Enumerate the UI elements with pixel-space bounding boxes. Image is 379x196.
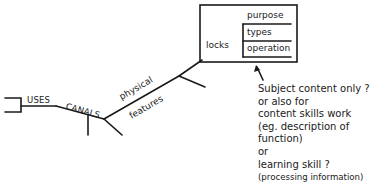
box-item-operation: operation [247, 44, 290, 53]
box-item-types: types [247, 28, 272, 37]
annotation-line: Subject content only ? [258, 83, 370, 96]
annotation-line: or [258, 146, 370, 159]
left-bracket [5, 98, 21, 112]
annotation-text: Subject content only ? or also for conte… [258, 83, 370, 184]
annotation-line: learning skill ? [258, 159, 370, 172]
annotation-line: function) [258, 133, 370, 146]
node-locks: locks [206, 41, 229, 50]
annotation-line: (processing information) [258, 171, 370, 184]
locks-line [179, 60, 202, 76]
features-branch [179, 76, 205, 87]
node-uses: USES [27, 96, 50, 105]
annotation-line: content skills work [258, 108, 370, 121]
annotation-line: (eg. description of [258, 121, 370, 134]
annotation-line: or also for [258, 96, 370, 109]
junction-branch [104, 119, 122, 135]
box-item-purpose: purpose [247, 11, 284, 20]
